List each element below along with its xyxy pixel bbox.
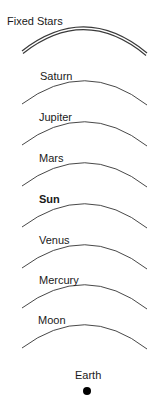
label-fixed-stars: Fixed Stars [7,15,63,27]
label-venus: Venus [39,234,70,246]
geocentric-spheres-diagram: Fixed Stars Saturn Jupiter Mars Sun Venu… [0,0,159,411]
label-jupiter: Jupiter [39,111,72,123]
label-earth: Earth [75,369,101,381]
label-sun: Sun [39,193,60,205]
arc-saturn [22,81,147,105]
arc-sun [22,204,147,228]
label-saturn: Saturn [40,70,72,82]
label-mercury: Mercury [39,274,79,286]
arc-mercury [22,285,147,309]
arc-venus [22,245,147,269]
arc-moon [22,325,147,349]
label-moon: Moon [38,314,66,326]
arc-jupiter [22,122,147,146]
arc-mars [22,163,147,187]
arc-fixed-stars [22,27,147,56]
earth-dot-icon [83,387,91,395]
label-mars: Mars [39,152,63,164]
sphere-arcs [0,0,159,411]
